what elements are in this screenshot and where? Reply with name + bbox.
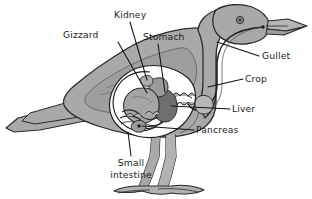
pancreas-anchor-dot: [137, 124, 140, 127]
diagram-canvas: Gizzard Kidney Stomach Gullet Crop Liver…: [0, 0, 312, 199]
leader-line-small-intestine: [128, 132, 131, 156]
crop: [195, 95, 213, 114]
gullet-anchor-dot: [261, 25, 264, 28]
leg-front-fill: [158, 134, 176, 186]
label-small-intestine-line1: Small: [118, 157, 144, 168]
label-gizzard: Gizzard: [63, 29, 98, 40]
foot-rear: [114, 185, 204, 194]
eye-pupil: [239, 19, 242, 22]
coil-segment-a: [172, 93, 195, 96]
label-crop: Crop: [245, 73, 267, 84]
bird-digestive-system-diagram: Gizzard Kidney Stomach Gullet Crop Liver…: [0, 0, 312, 199]
label-liver: Liver: [232, 103, 255, 114]
gizzard: [124, 88, 159, 123]
label-small-intestine-line2: intestine: [110, 169, 152, 180]
label-kidney: Kidney: [114, 9, 147, 20]
label-pancreas: Pancreas: [196, 124, 239, 135]
label-stomach: Stomach: [143, 31, 185, 42]
label-gullet: Gullet: [262, 50, 290, 61]
